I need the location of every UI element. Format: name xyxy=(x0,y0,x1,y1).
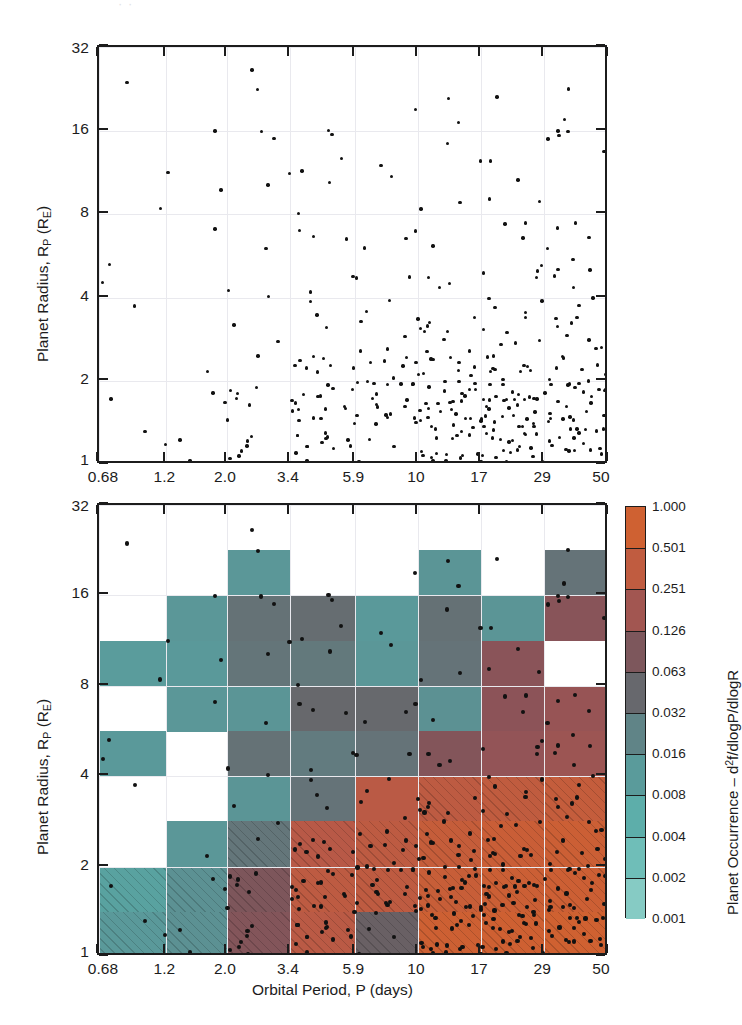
data-point xyxy=(343,894,347,898)
data-point xyxy=(488,383,491,386)
data-point xyxy=(553,274,556,277)
data-point xyxy=(405,398,408,401)
data-point xyxy=(276,340,279,343)
data-point xyxy=(298,359,301,362)
data-point xyxy=(505,812,509,816)
data-point xyxy=(603,874,605,878)
data-point xyxy=(510,876,514,880)
data-point xyxy=(452,911,456,915)
data-point xyxy=(572,763,576,767)
data-point xyxy=(329,364,332,367)
y-ticklabel: 1 xyxy=(57,451,89,469)
data-point xyxy=(577,431,580,434)
x-tick xyxy=(224,452,226,461)
x-tick xyxy=(287,944,289,953)
occurrence-x-axis-title: Orbital Period, P (days) xyxy=(252,981,413,999)
data-point xyxy=(346,928,350,932)
data-point xyxy=(501,868,505,872)
data-point xyxy=(492,837,496,841)
data-point xyxy=(503,222,506,225)
colorbar[interactable] xyxy=(625,506,646,918)
data-point xyxy=(524,790,528,794)
data-point xyxy=(422,372,425,375)
data-point xyxy=(359,320,362,323)
data-point xyxy=(533,898,537,902)
data-point xyxy=(527,881,531,885)
data-point xyxy=(404,237,407,240)
data-point xyxy=(109,884,113,888)
data-point xyxy=(547,908,551,912)
data-point xyxy=(357,952,361,954)
x-tick-top xyxy=(287,505,289,514)
data-point xyxy=(548,899,552,903)
x-tick xyxy=(96,452,98,461)
colorbar-segment xyxy=(626,795,645,836)
x-tick-top xyxy=(163,505,165,514)
data-point xyxy=(376,892,380,896)
data-point xyxy=(383,843,387,847)
data-point xyxy=(359,349,362,352)
data-point xyxy=(482,425,485,428)
x-tick xyxy=(415,944,417,953)
data-point xyxy=(595,429,598,432)
data-point xyxy=(143,919,147,923)
data-point xyxy=(375,878,379,882)
data-point xyxy=(414,229,417,232)
data-point xyxy=(405,356,408,359)
data-point xyxy=(533,410,536,413)
x-tick-top xyxy=(352,505,354,514)
data-point xyxy=(594,347,597,350)
data-point xyxy=(427,407,430,410)
data-point xyxy=(331,937,335,941)
data-point xyxy=(583,916,587,920)
data-point xyxy=(524,693,528,697)
data-point xyxy=(574,221,577,224)
data-point xyxy=(451,437,454,440)
data-point xyxy=(444,459,447,461)
data-point xyxy=(245,934,249,938)
data-point xyxy=(540,739,544,743)
data-point xyxy=(296,683,300,687)
data-point xyxy=(534,921,538,925)
data-point xyxy=(298,229,301,232)
y-tick xyxy=(99,683,108,685)
data-point xyxy=(403,335,406,338)
x-tick xyxy=(541,944,543,953)
data-point xyxy=(556,886,560,890)
y-ticklabel: 2 xyxy=(57,370,89,388)
data-point xyxy=(511,439,514,442)
x-tick xyxy=(352,944,354,953)
data-point xyxy=(566,130,569,133)
scatter-panel xyxy=(97,45,607,463)
data-point xyxy=(403,405,406,408)
data-point xyxy=(489,370,492,373)
data-point xyxy=(447,97,450,100)
data-point xyxy=(228,874,232,878)
data-point xyxy=(422,810,426,814)
data-point xyxy=(483,902,487,906)
data-point xyxy=(427,276,430,279)
data-point xyxy=(350,873,354,877)
data-point xyxy=(294,942,298,946)
data-point xyxy=(425,832,429,836)
data-point xyxy=(324,431,327,434)
x-ticklabel: 17 xyxy=(470,468,487,486)
data-point xyxy=(330,133,333,136)
data-point xyxy=(322,840,326,844)
data-point xyxy=(296,434,299,437)
x-ticklabel: 3.4 xyxy=(277,468,299,486)
data-point xyxy=(236,392,239,395)
data-point xyxy=(473,316,476,319)
data-point xyxy=(522,884,526,888)
data-point xyxy=(401,848,405,852)
x-tick-top xyxy=(606,47,608,56)
data-point xyxy=(463,394,466,397)
data-point xyxy=(540,299,543,302)
data-point xyxy=(602,414,605,417)
data-point xyxy=(531,946,535,950)
y-tick xyxy=(99,864,108,866)
data-point xyxy=(332,447,335,450)
data-point xyxy=(513,884,517,888)
data-point xyxy=(512,414,515,417)
data-point xyxy=(503,694,507,698)
